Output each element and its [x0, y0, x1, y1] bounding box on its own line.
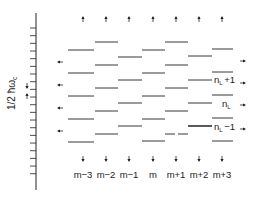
up-arrow-icon: [104, 16, 107, 22]
level-column-m+2: [188, 56, 212, 126]
up-arrow-icon: [127, 16, 130, 22]
down-arrow-icon: [127, 156, 130, 162]
up-arrow-icon: [151, 16, 154, 22]
energy-axis: [25, 13, 36, 190]
right-arrow-icon: [240, 59, 246, 62]
level-labels: nL+1nLnL−1: [214, 74, 235, 133]
up-arrow-icon: [81, 16, 84, 22]
down-arrow-icon: [151, 156, 154, 162]
landau-level-diagram: 1/2 ħωc m−3m−2m−1mm+1m+2m+3 nL+1nLnL−1: [0, 0, 258, 199]
level-label: nL: [222, 98, 231, 110]
down-arrow-icon: [220, 156, 223, 162]
down-arrow-icon: [104, 156, 107, 162]
level-label: nL+1: [214, 74, 235, 86]
level-label: nL−1: [214, 121, 235, 133]
axis-marker-arrow-icon: [25, 93, 28, 99]
down-arrow-icon: [81, 156, 84, 162]
axis-marker-arrow-icon: [25, 83, 28, 89]
column-label: m+1: [167, 169, 186, 180]
up-arrow-icon: [174, 16, 177, 22]
left-arrow-icon: [57, 60, 63, 63]
level-column-m−1: [118, 57, 142, 126]
column-label: m−1: [120, 169, 139, 180]
column-label: m−2: [97, 169, 116, 180]
down-arrow-icon: [174, 156, 177, 162]
level-column-m: [142, 50, 165, 141]
right-arrow-icon: [240, 103, 246, 106]
level-column-m−3: [68, 50, 94, 142]
up-arrow-icon: [197, 16, 200, 22]
column-label: m−3: [74, 169, 93, 180]
up-arrow-icon: [220, 16, 223, 22]
column-labels: m−3m−2m−1mm+1m+2m+3: [74, 169, 232, 180]
left-arrow-icon: [57, 106, 63, 109]
column-label: m+2: [190, 169, 209, 180]
level-column-m−2: [95, 42, 118, 134]
arrow-markers: [57, 16, 246, 162]
left-arrow-icon: [57, 83, 63, 86]
left-arrow-icon: [57, 129, 63, 132]
column-label: m+3: [213, 169, 232, 180]
level-column-m+1: [165, 42, 188, 134]
energy-levels: [68, 42, 233, 142]
right-arrow-icon: [240, 81, 246, 84]
axis-label: 1/2 ħωc: [6, 76, 18, 110]
column-label: m: [149, 169, 157, 180]
down-arrow-icon: [197, 156, 200, 162]
right-arrow-icon: [240, 127, 246, 130]
